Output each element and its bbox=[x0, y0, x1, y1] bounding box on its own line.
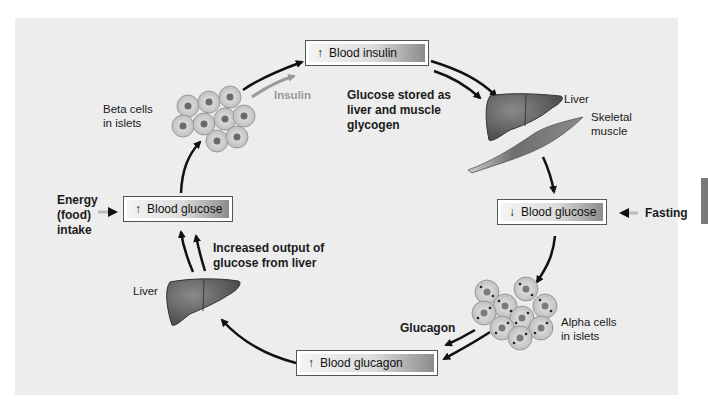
arrow-liver-to-glucose bbox=[181, 232, 205, 272]
energy-intake-line: (food) bbox=[57, 208, 98, 223]
arrow-glucagon-to-liver bbox=[222, 320, 296, 363]
increased-output-line: glucose from liver bbox=[213, 256, 324, 271]
alpha-cell-cluster-icon bbox=[472, 277, 557, 350]
blood-insulin-label: Blood insulin bbox=[329, 46, 397, 60]
arrow-lowglucose-to-alpha bbox=[537, 236, 555, 282]
insulin-label: Insulin bbox=[274, 88, 311, 102]
skeletal-muscle-label: Skeletal muscle bbox=[591, 110, 632, 138]
down-arrow-icon: ↓ bbox=[509, 205, 515, 219]
up-arrow-icon: ↑ bbox=[135, 202, 141, 216]
glucose-stored-line: Glucose stored as bbox=[347, 88, 451, 103]
skeletal-muscle-line: Skeletal bbox=[591, 110, 632, 124]
alpha-cells-line: Alpha cells bbox=[561, 315, 617, 329]
arrow-muscle-to-lowglucose bbox=[543, 157, 554, 192]
liver-bottom-label: Liver bbox=[133, 284, 158, 298]
beta-cells-line: in islets bbox=[103, 116, 153, 130]
beta-cells-label: Beta cells in islets bbox=[103, 102, 153, 130]
beta-cell-cluster-icon bbox=[172, 86, 255, 152]
glucagon-label: Glucagon bbox=[400, 321, 455, 336]
energy-intake-line: intake bbox=[57, 223, 98, 238]
energy-intake-label: Energy (food) intake bbox=[57, 193, 98, 238]
blood-glucose-low-label: Blood glucose bbox=[521, 205, 596, 219]
arrow-energy-intake bbox=[98, 207, 118, 217]
blood-glucose-low-box: ↓ Blood glucose bbox=[497, 199, 607, 225]
up-arrow-icon: ↑ bbox=[317, 46, 323, 60]
alpha-cells-line: in islets bbox=[561, 329, 617, 343]
blood-insulin-box: ↑ Blood insulin bbox=[305, 40, 429, 66]
liver-top-label: Liver bbox=[564, 92, 589, 106]
glucose-stored-line: liver and muscle bbox=[347, 103, 451, 118]
energy-intake-line: Energy bbox=[57, 193, 98, 208]
arrow-fasting bbox=[619, 208, 638, 218]
fasting-label: Fasting bbox=[645, 206, 688, 221]
beta-cells-line: Beta cells bbox=[103, 102, 153, 116]
blood-glucose-high-box: ↑ Blood glucose bbox=[123, 196, 233, 222]
liver-icon bbox=[167, 279, 240, 325]
skeletal-muscle-line: muscle bbox=[591, 124, 632, 138]
glucose-stored-line: glycogen bbox=[347, 118, 451, 133]
glucose-stored-label: Glucose stored as liver and muscle glyco… bbox=[347, 88, 451, 133]
arrow-glucose-to-beta bbox=[181, 142, 200, 193]
up-arrow-icon: ↑ bbox=[308, 356, 314, 370]
increased-output-line: Increased output of bbox=[213, 241, 324, 256]
alpha-cells-label: Alpha cells in islets bbox=[561, 315, 617, 343]
blood-glucose-high-label: Blood glucose bbox=[147, 202, 222, 216]
blood-glucagon-label: Blood glucagon bbox=[320, 356, 403, 370]
increased-output-label: Increased output of glucose from liver bbox=[213, 241, 324, 271]
blood-glucagon-box: ↑ Blood glucagon bbox=[296, 350, 438, 376]
